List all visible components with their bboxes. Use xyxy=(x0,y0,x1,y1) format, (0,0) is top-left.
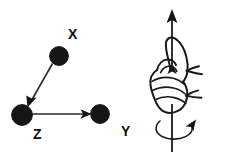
knuckle-spur-upper xyxy=(187,71,202,74)
arrowhead-x-to-z xyxy=(26,96,36,108)
rotation-arc xyxy=(156,121,192,139)
right-hand-rule-illustration xyxy=(150,9,202,152)
knuckle-spur-lower xyxy=(186,96,201,98)
finger-crease-1 xyxy=(152,78,183,84)
label-z: Z xyxy=(33,126,42,142)
atom-x xyxy=(50,47,69,66)
label-x: X xyxy=(68,26,78,42)
finger-crease-3 xyxy=(155,97,186,103)
atom-z xyxy=(12,105,33,126)
fist-right-contour xyxy=(183,82,187,100)
figure-svg: X Z Y xyxy=(0,0,231,156)
thumb-outer-edge xyxy=(177,40,188,82)
vector-z-to-y xyxy=(32,109,92,119)
figure-container: X Z Y xyxy=(0,0,231,156)
label-y: Y xyxy=(121,123,131,139)
rotation-arrowhead xyxy=(186,120,196,132)
vector-x-to-z xyxy=(26,64,52,108)
atom-y xyxy=(91,105,110,124)
xyz-vector-diagram: X Z Y xyxy=(12,26,131,142)
finger-crease-2 xyxy=(152,87,185,94)
